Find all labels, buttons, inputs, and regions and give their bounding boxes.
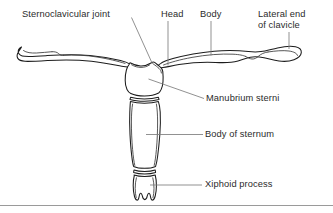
label-lateral-end-of-clavicle-line1: Lateral end: [258, 9, 306, 20]
left-clavicle-outline: [17, 47, 131, 67]
right-clavicle-outline: [158, 46, 301, 67]
label-xiphoid-process: Xiphoid process: [205, 179, 273, 190]
label-head: Head: [161, 9, 184, 20]
left-clavicle-detail-upper: [24, 51, 53, 53]
label-sternoclavicular-joint: Sternoclavicular joint: [22, 9, 110, 20]
label-manubrium-sterni: Manubrium sterni: [206, 93, 279, 104]
sternum-body-top-segment: [130, 97, 159, 101]
figure-canvas: Sternoclavicular joint Head Body Lateral…: [0, 0, 333, 213]
label-body-of-sternum: Body of sternum: [205, 129, 274, 140]
xiphoid-joint-line: [134, 170, 156, 174]
leader-sternoclavicular-joint: [132, 18, 153, 65]
label-lateral-end-of-clavicle-line2: of clavicle: [258, 20, 300, 31]
left-clavicle-group: [17, 47, 131, 67]
sternum-body-group: [130, 97, 161, 168]
anatomy-illustration: [0, 0, 333, 213]
label-body: Body: [200, 9, 222, 20]
right-clavicle-group: [158, 46, 301, 67]
manubrium-group: [125, 62, 163, 96]
